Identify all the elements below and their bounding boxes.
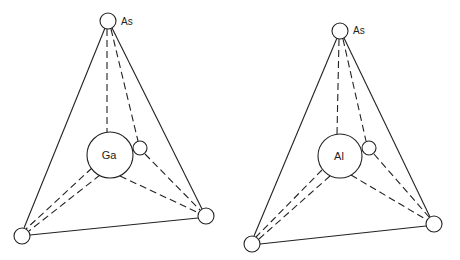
- as-atom-bottom-right: [426, 216, 442, 232]
- bond-small-br: [374, 154, 429, 217]
- bond-center-br: [351, 175, 427, 220]
- edge-bl-br: [30, 218, 198, 235]
- as-atom-bottom-right: [198, 208, 214, 224]
- as-atom-bottom-left: [244, 236, 260, 252]
- bond-center-br: [120, 176, 199, 213]
- label-as-right: As: [353, 25, 365, 36]
- edge-apex-br: [344, 38, 430, 217]
- as-atom-apex: [100, 13, 116, 29]
- bond-apex-small: [111, 29, 138, 141]
- edge-bl-br: [260, 226, 426, 244]
- bond-center-bl-a: [256, 170, 322, 237]
- bond-center-bl-b: [29, 175, 100, 231]
- small-atom: [133, 141, 147, 155]
- bond-apex-center: [337, 39, 339, 134]
- alas-tetrahedron: As Al: [244, 23, 442, 252]
- tetrahedra-diagram: As Ga As Al: [0, 0, 460, 260]
- bond-small-br: [145, 154, 200, 210]
- small-atom: [362, 141, 376, 155]
- label-as-left: As: [121, 16, 133, 27]
- bond-center-bl-b: [259, 176, 330, 239]
- edge-apex-br: [112, 28, 202, 209]
- as-atom-bottom-left: [14, 228, 30, 244]
- label-al: Al: [334, 150, 344, 162]
- edge-apex-bl: [24, 28, 105, 228]
- bond-apex-small: [343, 39, 366, 141]
- as-atom-apex: [332, 23, 348, 39]
- label-ga: Ga: [102, 149, 118, 161]
- gaas-tetrahedron: As Ga: [14, 13, 214, 244]
